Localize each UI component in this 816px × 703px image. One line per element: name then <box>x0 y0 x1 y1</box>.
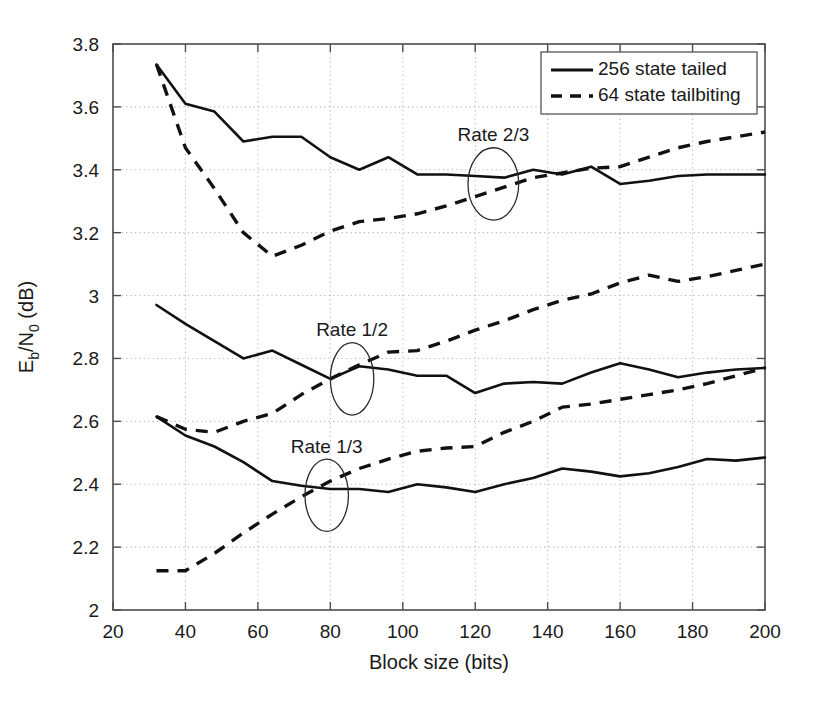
chart-canvas: 2040608010012014016018020022.22.42.62.83… <box>0 0 816 703</box>
annotations: Rate 2/3Rate 1/2Rate 1/3 <box>291 124 529 531</box>
chart-figure: 2040608010012014016018020022.22.42.62.83… <box>0 0 816 703</box>
x-tick-label: 160 <box>604 621 636 642</box>
annotation-label: Rate 1/2 <box>316 319 388 340</box>
y-axis-title: Eb/N0 (dB) <box>15 281 42 373</box>
x-tick-label: 200 <box>749 621 781 642</box>
y-tick-label: 2.4 <box>73 474 100 495</box>
y-axis-title-sub-0: 0 <box>26 324 42 332</box>
tick-marks <box>113 44 765 610</box>
y-axis-title-sub-b: b <box>26 352 42 360</box>
x-tick-label: 100 <box>387 621 419 642</box>
y-tick-label: 3.8 <box>73 34 99 55</box>
legend-label: 256 state tailed <box>598 58 727 79</box>
y-axis-title-base: E <box>15 360 37 373</box>
y-tick-label: 3.4 <box>73 160 100 181</box>
y-tick-label: 3.2 <box>73 223 99 244</box>
series-line <box>156 368 765 571</box>
y-tick-label: 2 <box>88 600 99 621</box>
y-tick-label: 3.6 <box>73 97 99 118</box>
x-tick-label: 40 <box>175 621 196 642</box>
x-tick-label: 140 <box>532 621 564 642</box>
x-tick-label: 60 <box>247 621 268 642</box>
x-axis-title: Block size (bits) <box>369 651 509 673</box>
legend-label: 64 state tailbiting <box>598 84 741 105</box>
annotation-label: Rate 2/3 <box>457 124 529 145</box>
legend[interactable]: 256 state tailed64 state tailbiting <box>541 52 757 114</box>
y-axis-title-slash: /N <box>15 332 37 352</box>
plot-frame <box>113 44 765 610</box>
y-tick-label: 2.6 <box>73 411 99 432</box>
annotation-ellipse <box>468 148 519 220</box>
annotation-ellipse <box>305 459 348 531</box>
grid-lines <box>113 44 765 610</box>
series-line <box>156 417 765 492</box>
series-line <box>156 264 765 432</box>
x-tick-label: 80 <box>320 621 341 642</box>
x-tick-label: 180 <box>677 621 709 642</box>
axis-frame <box>113 44 765 610</box>
y-axis-title-unit: (dB) <box>15 281 37 324</box>
series-line <box>156 305 765 393</box>
svg-text:Eb/N0 (dB): Eb/N0 (dB) <box>15 281 42 373</box>
annotation-label: Rate 1/3 <box>291 436 363 457</box>
x-tick-label: 120 <box>459 621 491 642</box>
y-tick-label: 2.2 <box>73 537 99 558</box>
y-tick-label: 3 <box>88 286 99 307</box>
y-tick-label: 2.8 <box>73 348 99 369</box>
annotation-ellipse <box>330 343 373 415</box>
x-tick-label: 20 <box>102 621 123 642</box>
